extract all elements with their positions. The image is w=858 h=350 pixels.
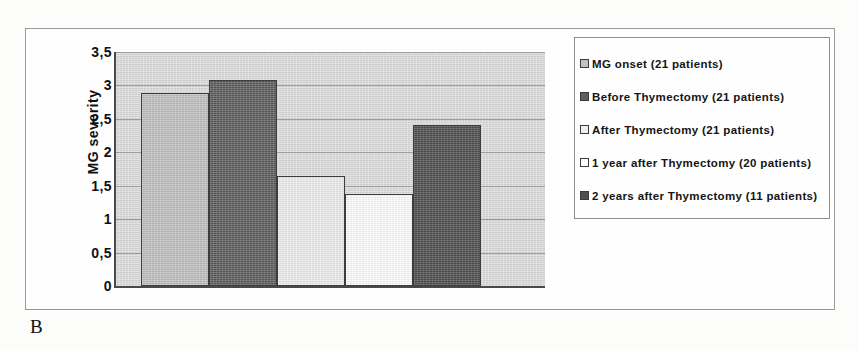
legend-label: After Thymectomy (21 patients)	[592, 124, 774, 136]
legend-swatch-icon	[580, 191, 589, 200]
y-tick-label: 2,5	[91, 111, 112, 127]
legend-item[interactable]: MG onset (21 patients)	[580, 47, 825, 80]
legend-item[interactable]: 1 year after Thymectomy (20 patients)	[580, 146, 825, 179]
legend-swatch-icon	[580, 59, 589, 68]
y-tick-label: 1,5	[91, 178, 112, 194]
legend-label: 1 year after Thymectomy (20 patients)	[592, 157, 811, 169]
bar-texture	[142, 94, 208, 285]
legend-label: MG onset (21 patients)	[592, 58, 723, 70]
legend-swatch-icon	[580, 125, 589, 134]
bar[interactable]	[277, 176, 345, 286]
bar[interactable]	[413, 125, 481, 286]
legend-swatch-icon	[580, 92, 589, 101]
bar-series	[116, 52, 545, 286]
y-tick-label: 0,5	[91, 245, 112, 261]
plot-area	[114, 52, 545, 288]
y-tick-label: 3,5	[91, 44, 112, 60]
bar[interactable]	[345, 194, 413, 286]
y-tick-label: 2	[104, 144, 112, 160]
bar-texture	[346, 195, 412, 285]
bar[interactable]	[141, 93, 209, 286]
legend: MG onset (21 patients)Before Thymectomy …	[574, 37, 830, 219]
y-tick-label: 0	[104, 278, 112, 294]
y-tick-label: 1	[104, 211, 112, 227]
legend-swatch-icon	[580, 158, 589, 167]
legend-item[interactable]: Before Thymectomy (21 patients)	[580, 80, 825, 113]
legend-label: 2 years after Thymectomy (11 patients)	[592, 190, 818, 202]
bar-chart: MG severity 3,532,521,510,50	[26, 29, 571, 311]
bar-texture	[210, 81, 276, 285]
legend-item[interactable]: After Thymectomy (21 patients)	[580, 113, 825, 146]
legend-label: Before Thymectomy (21 patients)	[592, 91, 784, 103]
bar-texture	[278, 177, 344, 285]
legend-item[interactable]: 2 years after Thymectomy (11 patients)	[580, 179, 825, 212]
figure-frame: MG severity 3,532,521,510,50 MG onset (2…	[25, 28, 835, 310]
panel-letter: B	[30, 316, 43, 338]
bar-texture	[414, 126, 480, 285]
y-tick-label: 3	[104, 77, 112, 93]
y-axis-tick-labels: 3,532,521,510,50	[62, 29, 112, 311]
bar[interactable]	[209, 80, 277, 286]
